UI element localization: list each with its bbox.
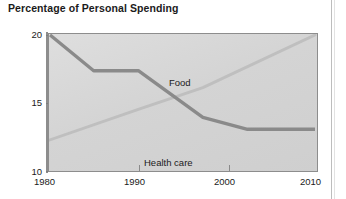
y-tick-label-15: 15	[18, 97, 42, 108]
x-tick-2000	[229, 165, 230, 171]
series-label-health-care: Health care	[144, 157, 193, 168]
y-tick-label-20: 20	[18, 29, 42, 40]
chart-figure: Percentage of Personal Spending 20 15 10…	[0, 0, 346, 199]
x-tick-label-1980: 1980	[34, 176, 55, 187]
series-label-food: Food	[169, 77, 191, 88]
plot-region: Food Health care	[48, 33, 318, 172]
chart-area: 20 15 10 Food Health care 1980 1990 2000…	[0, 18, 346, 199]
series-canvas	[49, 34, 317, 172]
x-tick-1990	[139, 165, 140, 171]
chart-title: Percentage of Personal Spending	[8, 2, 179, 14]
x-tick-label-2000: 2000	[214, 176, 235, 187]
x-tick-label-2010: 2010	[300, 176, 321, 187]
x-tick-label-1990: 1990	[124, 176, 145, 187]
